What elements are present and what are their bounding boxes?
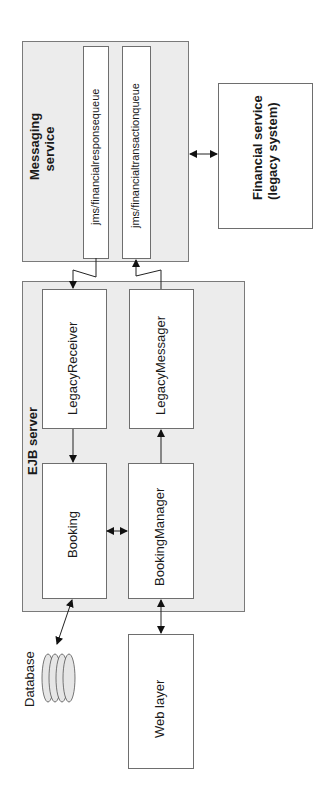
financial-service-label-line2: (legacy system) — [266, 110, 281, 200]
database-label: Database — [23, 651, 38, 707]
messaging-service-label-line2: service — [43, 118, 58, 180]
web-layer-label: Web layer — [153, 680, 168, 738]
response-queue-label: jms/financialresponsequeue — [89, 89, 102, 225]
booking-label: Booking — [66, 511, 81, 558]
messaging-service-label: Messaging service — [28, 118, 58, 180]
legacy-receiver-label: LegacyReceiver — [66, 322, 81, 415]
transaction-queue-label: jms/financialtransactionqueue — [129, 83, 142, 228]
booking-manager-label: BookingManager — [153, 488, 168, 586]
messaging-service-label-line1: Messaging — [28, 118, 43, 180]
legacy-messager-label: LegacyMessager — [154, 316, 169, 415]
ejb-server-label: EJB server — [26, 407, 41, 475]
database-icon — [42, 654, 75, 702]
financial-service-label: Financial service (legacy system) — [251, 110, 281, 200]
financial-service-label-line1: Financial service — [251, 110, 266, 200]
